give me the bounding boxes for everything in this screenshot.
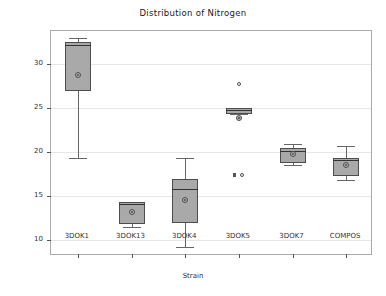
y-tick-label: 10 xyxy=(13,235,43,243)
mean-marker xyxy=(343,162,349,168)
x-tick-label: 3DOK5 xyxy=(208,232,268,240)
x-tick-label: 3DOK4 xyxy=(154,232,214,240)
x-tick-label: 3DOK1 xyxy=(47,232,107,240)
whisker-cap-upper xyxy=(337,146,355,147)
y-tick-label: 15 xyxy=(13,191,43,199)
x-tick-label: COMPOS xyxy=(315,232,375,240)
x-tick-mark xyxy=(78,254,79,258)
y-tick-label: 25 xyxy=(13,103,43,111)
x-tick-mark xyxy=(346,254,347,258)
y-tick-label: 30 xyxy=(13,59,43,67)
box-plot-figure: Distribution of Nitrogen 1015202530 Nitr… xyxy=(0,0,386,296)
chart-title: Distribution of Nitrogen xyxy=(0,8,386,18)
x-tick-label: 3DOK13 xyxy=(101,232,161,240)
y-tick-label: 20 xyxy=(13,147,43,155)
plot-area: 1015202530 xyxy=(50,30,372,255)
x-tick-mark xyxy=(185,254,186,258)
x-tick-label: 3DOK7 xyxy=(262,232,322,240)
x-tick-mark xyxy=(239,254,240,258)
x-tick-mark xyxy=(132,254,133,258)
box-plot-item[interactable] xyxy=(51,31,373,254)
x-axis-label: Strain xyxy=(0,272,386,280)
x-tick-mark xyxy=(293,254,294,258)
whisker-cap-lower xyxy=(337,180,355,181)
